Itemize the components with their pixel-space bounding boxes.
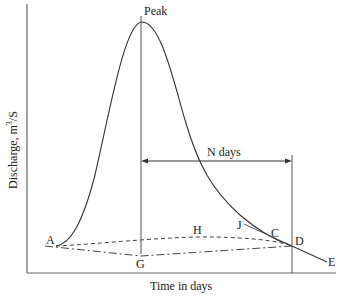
point-e-label: E [328, 255, 335, 269]
point-c-label: C [271, 226, 279, 240]
point-h-label: H [193, 223, 202, 237]
dash-dot-baseflow-line [45, 246, 292, 256]
point-g-label: G [136, 257, 145, 271]
arrow-right-head [285, 159, 292, 164]
arrow-left-head [141, 159, 148, 164]
hydrograph-curve [56, 22, 327, 262]
hydrograph-diagram: Peak N days A G H J C D E Time in days D… [0, 0, 344, 296]
point-j-label: J [237, 218, 242, 232]
y-axis-label-group: Discharge, m3/S [5, 111, 20, 189]
dashed-baseflow-curve [56, 237, 292, 246]
n-days-label: N days [207, 145, 241, 159]
peak-label: Peak [144, 4, 167, 18]
y-axis-label: Discharge, m3/S [5, 111, 20, 189]
tangent-line-jd [244, 224, 292, 246]
point-a-label: A [46, 233, 55, 247]
point-d-label: D [295, 234, 304, 248]
x-axis-label: Time in days [150, 279, 213, 293]
